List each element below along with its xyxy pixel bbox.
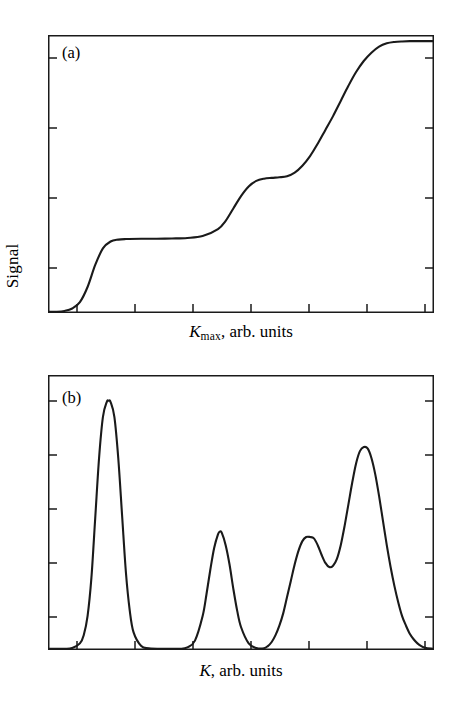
panel-b: (b)	[48, 375, 434, 650]
panel-a-x-axis-label: Kmax, arb. units	[48, 322, 434, 346]
panel-b-x-rest: , arb. units	[211, 661, 283, 680]
panel-b-x-axis-label: K, arb. units	[48, 661, 434, 685]
panel-a-plot	[48, 35, 434, 313]
y-axis-label: Signal	[0, 206, 26, 326]
panel-b-x-symbol: K	[199, 661, 210, 680]
panel-a-tag: (a)	[62, 44, 80, 62]
panel-a-x-subscript: max	[201, 330, 221, 342]
panel-a-x-rest: , arb. units	[221, 322, 293, 341]
panel-b-plot	[48, 375, 434, 650]
panel-b-tag: (b)	[62, 389, 81, 407]
panel-a-x-symbol: K	[189, 322, 200, 341]
figure-container: Signal	[0, 0, 460, 718]
panel-a-frame	[49, 36, 434, 313]
panel-a: (a)	[48, 35, 434, 313]
panel-b-frame	[49, 376, 434, 650]
y-axis-label-text: Signal	[3, 244, 22, 289]
